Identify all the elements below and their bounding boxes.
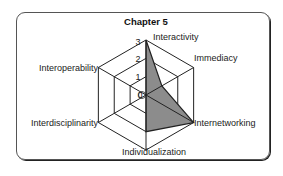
axis-label-individualization: Individualization [122,147,186,157]
tick-label-0: 0 [137,90,142,100]
radar-spokes [98,40,193,150]
radar-chart: Chapter 5 3 2 1 0 Interactivity Immediac… [0,0,283,176]
chart-title: Chapter 5 [124,16,169,27]
axis-label-interactivity: Interactivity [153,32,199,42]
axis-label-internetworking: Internetworking [194,118,256,128]
axis-label-interoperability: Interoperability [39,63,99,73]
axis-label-interdisciplinarity: Interdisciplinarity [31,118,99,128]
axis-label-immediacy: Immediacy [194,53,238,63]
tick-label-2: 2 [135,54,140,64]
tick-label-3: 3 [135,37,140,47]
tick-label-1: 1 [135,72,140,82]
